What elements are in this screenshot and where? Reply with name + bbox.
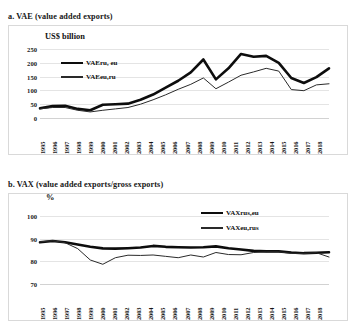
- legend-item-vax-eu-rus: VAXeu,rus: [201, 224, 259, 232]
- y-axis-tick-label: 250: [27, 46, 37, 53]
- legend-label: VAEru, eu: [86, 59, 117, 67]
- x-axis-tick-label: 2007: [184, 142, 191, 154]
- x-axis-tick-label: 1999: [87, 142, 94, 154]
- legend-swatch-thin-icon: [61, 76, 83, 77]
- panel-a-caption: a. VAE (value added exports): [0, 0, 354, 21]
- y-axis-tick-label: 100: [27, 213, 37, 220]
- panel-vae: a. VAE (value added exports) US$ billion…: [0, 0, 354, 170]
- series-line: [40, 241, 329, 253]
- x-axis-tick-label: 2017: [304, 308, 311, 320]
- x-axis-tick-label: 2017: [304, 142, 311, 154]
- y-axis-tick-label: 70: [30, 281, 37, 288]
- x-axis-tick-label: 2001: [111, 142, 118, 154]
- x-axis-tick-label: 2010: [220, 308, 227, 320]
- x-axis-tick-label: 2011: [232, 308, 239, 320]
- chart-b-unit-label: %: [46, 193, 54, 202]
- chart-a-frame: US$ billion 050100150200250 199519961997…: [8, 25, 348, 155]
- x-axis-tick-label: 1996: [51, 308, 58, 320]
- y-axis-tick-label: 100: [27, 87, 37, 94]
- chart-b-frame: % 708090100 1995199619971998199920002001…: [8, 193, 348, 321]
- gridline: [40, 118, 329, 119]
- legend-label: VAXrus,eu: [226, 209, 259, 217]
- x-axis-tick-label: 2009: [208, 308, 215, 320]
- x-axis-tick-label: 2006: [171, 308, 178, 320]
- y-axis-tick-label: 80: [30, 258, 37, 265]
- x-axis-tick-label: 2004: [147, 142, 154, 154]
- legend-swatch-thick-icon: [61, 62, 83, 65]
- legend-swatch-thick-icon: [201, 212, 223, 215]
- x-axis-tick-label: 2015: [280, 142, 287, 154]
- y-axis-tick-label: 200: [27, 59, 37, 66]
- legend-item-vae-ru-eu: VAEru, eu: [61, 59, 117, 67]
- x-axis-tick-label: 2011: [232, 142, 239, 154]
- x-axis-tick-label: 2000: [99, 308, 106, 320]
- x-axis-tick-label: 2013: [256, 308, 263, 320]
- x-axis-tick-label: 2005: [159, 142, 166, 154]
- x-axis-tick-label: 1995: [39, 142, 46, 154]
- x-axis-tick-label: 2018: [316, 308, 323, 320]
- legend-swatch-thin-icon: [201, 227, 223, 228]
- x-axis-tick-label: 1996: [51, 142, 58, 154]
- x-axis-tick-label: 1995: [39, 308, 46, 320]
- x-axis-tick-label: 2013: [256, 142, 263, 154]
- x-axis-tick-label: 2005: [159, 308, 166, 320]
- x-axis-tick-label: 2010: [220, 142, 227, 154]
- chart-b-x-axis: 1995199619971998199920002001200220032004…: [40, 286, 329, 320]
- x-axis-tick-label: 1998: [75, 308, 82, 320]
- legend-label: VAXeu,rus: [226, 224, 259, 232]
- x-axis-tick-label: 1997: [63, 308, 70, 320]
- x-axis-tick-label: 1998: [75, 142, 82, 154]
- x-axis-tick-label: 2001: [111, 308, 118, 320]
- legend-item-vae-eu-ru: VAEeu,ru: [61, 73, 116, 81]
- legend-label: VAEeu,ru: [86, 73, 116, 81]
- x-axis-tick-label: 2014: [268, 142, 275, 154]
- y-axis-tick-label: 0: [34, 115, 37, 122]
- x-axis-tick-label: 2003: [135, 308, 142, 320]
- x-axis-tick-label: 1997: [63, 142, 70, 154]
- chart-b-series-layer: [40, 216, 329, 284]
- x-axis-tick-label: 2008: [196, 308, 203, 320]
- panel-vax: b. VAX (value added exports/gross export…: [0, 170, 354, 333]
- y-axis-tick-label: 90: [30, 235, 37, 242]
- x-axis-tick-label: 2008: [196, 142, 203, 154]
- x-axis-tick-label: 2012: [244, 308, 251, 320]
- x-axis-tick-label: 1999: [87, 308, 94, 320]
- x-axis-tick-label: 2016: [292, 142, 299, 154]
- chart-a-unit-label: US$ billion: [45, 32, 85, 41]
- x-axis-tick-label: 2003: [135, 142, 142, 154]
- x-axis-tick-label: 2002: [123, 142, 130, 154]
- x-axis-tick-label: 2009: [208, 142, 215, 154]
- x-axis-tick-label: 2015: [280, 308, 287, 320]
- legend-item-vax-rus-eu: VAXrus,eu: [201, 209, 259, 217]
- chart-a-x-axis: 1995199619971998199920002001200220032004…: [40, 120, 329, 154]
- x-axis-tick-label: 2018: [316, 142, 323, 154]
- x-axis-tick-label: 2007: [184, 308, 191, 320]
- x-axis-tick-label: 2016: [292, 308, 299, 320]
- x-axis-tick-label: 2006: [171, 142, 178, 154]
- x-axis-tick-label: 2004: [147, 308, 154, 320]
- x-axis-tick-label: 2012: [244, 142, 251, 154]
- x-axis-tick-label: 2000: [99, 142, 106, 154]
- y-axis-tick-label: 50: [30, 101, 37, 108]
- gridline: [40, 284, 329, 285]
- chart-b-plot-area: 708090100: [40, 216, 329, 284]
- x-axis-tick-label: 2014: [268, 308, 275, 320]
- panel-b-caption: b. VAX (value added exports/gross export…: [0, 170, 354, 189]
- y-axis-tick-label: 150: [27, 73, 37, 80]
- x-axis-tick-label: 2002: [123, 308, 130, 320]
- series-line: [40, 241, 329, 265]
